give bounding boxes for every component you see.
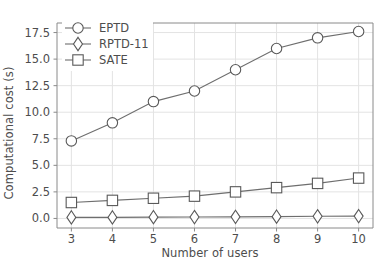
legend-item-sate: SATE: [64, 52, 149, 68]
data-point-eptd: [189, 86, 199, 96]
data-point-eptd: [148, 96, 158, 106]
data-point-rptd-11: [149, 211, 158, 224]
data-point-rptd-11: [231, 210, 240, 223]
data-point-eptd: [271, 43, 281, 53]
legend-glyph: [73, 23, 83, 33]
chart-figure: Computational cost (s) Number of users 0…: [0, 0, 391, 266]
data-point-rptd-11: [190, 210, 199, 223]
legend-glyph: [73, 55, 83, 65]
legend-label: SATE: [92, 52, 128, 68]
legend-marker-square: [64, 52, 92, 68]
data-point-eptd: [107, 118, 117, 128]
legend-glyph: [74, 37, 83, 50]
data-point-sate: [230, 187, 240, 197]
data-point-sate: [353, 173, 363, 183]
data-point-rptd-11: [108, 211, 117, 224]
legend-label: EPTD: [92, 20, 129, 36]
data-point-rptd-11: [354, 209, 363, 222]
legend-label: RPTD-11: [92, 36, 149, 52]
legend-item-rptd-11: RPTD-11: [64, 36, 149, 52]
data-point-rptd-11: [272, 210, 281, 223]
data-point-sate: [66, 197, 76, 207]
legend-marker-diamond: [64, 36, 92, 52]
plot-area: [0, 0, 391, 266]
data-point-sate: [107, 195, 117, 205]
data-point-eptd: [66, 136, 76, 146]
chart-legend: EPTDRPTD-11SATE: [62, 18, 153, 71]
legend-item-eptd: EPTD: [64, 20, 149, 36]
data-point-sate: [312, 178, 322, 188]
legend-marker-circle: [64, 20, 92, 36]
data-point-sate: [271, 182, 281, 192]
data-point-sate: [148, 193, 158, 203]
data-point-eptd: [230, 65, 240, 75]
data-point-sate: [189, 191, 199, 201]
data-point-rptd-11: [313, 210, 322, 223]
data-point-eptd: [353, 26, 363, 36]
data-point-eptd: [312, 33, 322, 43]
data-point-rptd-11: [67, 211, 76, 224]
